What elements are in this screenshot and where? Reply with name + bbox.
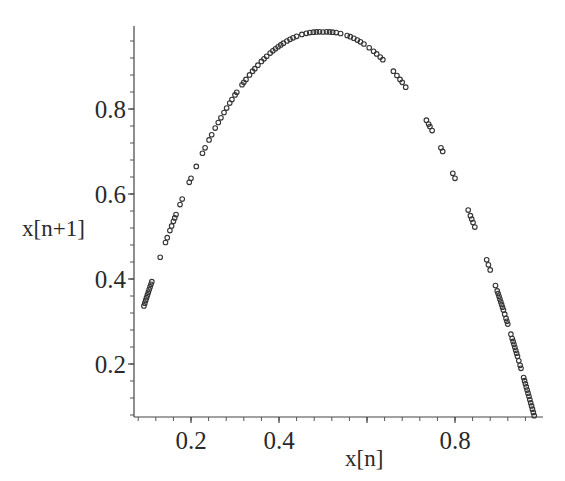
x-axis-label: x[n] (345, 446, 383, 471)
data-point (163, 240, 168, 245)
data-point (224, 106, 229, 111)
y-tick-label: 0.8 (95, 96, 126, 123)
data-point (488, 268, 493, 273)
data-point (178, 202, 183, 207)
data-point (506, 322, 511, 327)
axes (134, 26, 543, 417)
data-point (367, 45, 372, 50)
data-point (180, 197, 185, 202)
data-point (522, 378, 527, 383)
data-point (430, 128, 435, 133)
y-tick-label: 0.2 (95, 351, 126, 378)
y-ticks: 0.20.40.60.8 (95, 41, 134, 415)
data-point (453, 176, 458, 181)
x-tick-label: 0.4 (263, 427, 295, 454)
scatter-plot: 0.20.40.60.8 0.20.40.8 x[n+1] x[n] (0, 0, 565, 481)
data-point (362, 42, 367, 47)
data-point (403, 85, 408, 90)
data-point (521, 375, 526, 380)
x-tick-label: 0.2 (175, 427, 206, 454)
data-point (189, 176, 194, 181)
data-point (203, 146, 208, 151)
data-point (517, 358, 522, 363)
data-point (216, 120, 221, 125)
data-point (391, 69, 396, 74)
x-tick-label: 0.8 (439, 427, 470, 454)
data-point (165, 235, 170, 240)
data-point (230, 97, 235, 102)
data-point (168, 228, 173, 233)
data-point (484, 257, 489, 262)
data-point (451, 171, 456, 176)
data-point (338, 31, 343, 36)
data-point (256, 63, 261, 68)
data-point (169, 224, 174, 229)
y-tick-label: 0.4 (95, 266, 127, 293)
data-point (158, 255, 163, 260)
data-point (194, 164, 199, 169)
data-point (213, 126, 218, 131)
y-axis-label: x[n+1] (22, 216, 85, 241)
x-ticks: 0.20.40.8 (138, 417, 525, 454)
data-point (209, 132, 214, 137)
y-tick-label: 0.6 (95, 181, 126, 208)
data-point (219, 115, 224, 120)
data-point (519, 366, 524, 371)
data-point (518, 363, 523, 368)
data-point (200, 151, 205, 156)
data-point (493, 283, 498, 288)
data-point (515, 354, 520, 359)
data-point (207, 138, 212, 143)
data-point (222, 110, 227, 115)
data-point (473, 225, 478, 230)
data-point (466, 208, 471, 213)
data-points (142, 30, 537, 418)
data-point (486, 263, 491, 268)
